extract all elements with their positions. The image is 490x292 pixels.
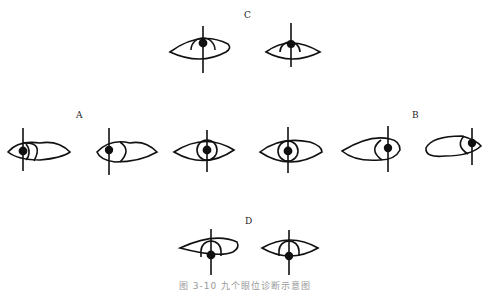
figure-caption: 图 3-10 九个眼位诊断示意图 — [0, 279, 490, 292]
eye-a1 — [8, 128, 70, 171]
eye-b3 — [426, 128, 481, 165]
eye-c2 — [266, 23, 320, 67]
eye-a2 — [97, 128, 157, 175]
eye-b2 — [342, 126, 400, 172]
eye-d2 — [262, 230, 318, 275]
eye-b1 — [260, 127, 322, 173]
eye-c1 — [170, 26, 230, 73]
eye-d1 — [180, 229, 238, 275]
eye-a3 — [174, 130, 234, 172]
